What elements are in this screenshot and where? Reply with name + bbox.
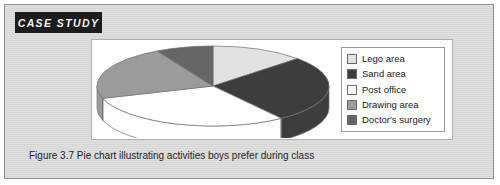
legend-label-lego-area: Lego area	[362, 54, 405, 64]
pie-chart-top-wedges	[97, 46, 329, 126]
legend-label-post-office: Post office	[362, 85, 406, 95]
case-study-banner: CASE STUDY	[15, 12, 102, 33]
legend-item-doctors-surgery: Doctor's surgery	[347, 113, 440, 127]
case-study-figure: CASE STUDY Lego area Sand area Post	[4, 4, 494, 179]
legend-item-drawing-area: Drawing area	[347, 98, 440, 112]
pie-chart-svg	[94, 42, 332, 138]
legend-item-post-office: Post office	[347, 83, 440, 97]
legend-swatch-sand-area	[347, 69, 357, 79]
legend-label-drawing-area: Drawing area	[362, 100, 419, 110]
case-study-banner-label: CASE STUDY	[18, 17, 100, 29]
legend-swatch-doctors-surgery	[347, 115, 357, 125]
legend-item-sand-area: Sand area	[347, 67, 440, 81]
chart-legend: Lego area Sand area Post office Drawing …	[341, 47, 445, 132]
legend-label-sand-area: Sand area	[362, 69, 406, 79]
legend-item-lego-area: Lego area	[347, 52, 440, 66]
legend-swatch-post-office	[347, 85, 357, 95]
chart-panel: Lego area Sand area Post office Drawing …	[91, 39, 453, 140]
legend-label-doctors-surgery: Doctor's surgery	[362, 115, 431, 125]
legend-swatch-lego-area	[347, 54, 357, 64]
pie-chart	[94, 42, 332, 138]
figure-caption: Figure 3.7 Pie chart illustrating activi…	[29, 150, 314, 161]
legend-swatch-drawing-area	[347, 100, 357, 110]
